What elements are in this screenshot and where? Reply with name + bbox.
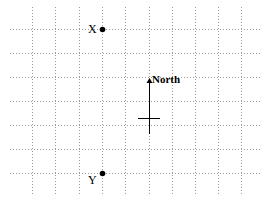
point-x-label: X [88, 22, 97, 36]
point-y-label: Y [88, 173, 97, 187]
north-arrow: North [138, 73, 180, 134]
dotted-grid [10, 7, 262, 195]
point-y-marker [100, 171, 106, 177]
north-label: North [152, 73, 180, 85]
grid-diagram: North XY [0, 0, 267, 199]
point-x-marker [100, 27, 106, 33]
